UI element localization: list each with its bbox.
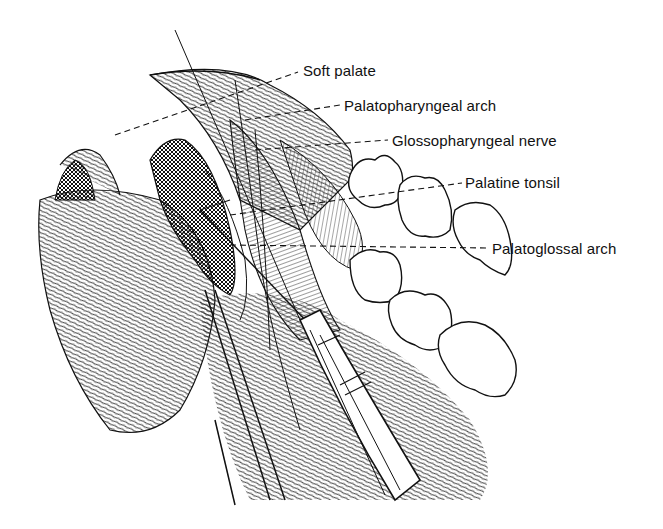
label-palatopharyngeal-arch: Palatopharyngeal arch [344, 97, 496, 114]
label-palatine-tonsil: Palatine tonsil [465, 174, 560, 191]
anatomical-illustration [0, 0, 663, 529]
label-glossopharyngeal-nerve: Glossopharyngeal nerve [392, 132, 557, 149]
label-soft-palate: Soft palate [303, 62, 376, 79]
label-palatoglossal-arch: Palatoglossal arch [492, 240, 616, 257]
